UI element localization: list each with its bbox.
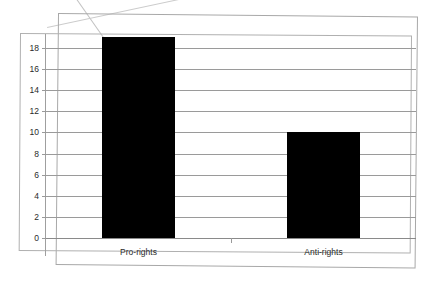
x-axis-category-separator-tick [231,238,232,243]
y-axis-tick-label: 4 [34,191,39,201]
y-axis-tick-label: 12 [30,106,39,116]
y-axis-tick-label: 8 [34,149,39,159]
y-axis-tick-label: 10 [30,127,39,137]
bar-pro-rights [102,37,175,238]
y-axis-tick [42,69,46,70]
y-axis-tick-label: 0 [34,233,39,243]
y-axis-tick [42,132,46,133]
x-axis-category-label: Anti-rights [304,247,342,257]
bar-anti-rights [287,132,360,238]
y-axis-tick-label: 14 [30,85,39,95]
y-axis-line [45,34,46,256]
y-axis-tick [42,196,46,197]
x-axis-labels-group: Pro-rightsAnti-rights [46,238,416,266]
y-axis-tick [42,90,46,91]
y-axis-tick [42,111,46,112]
gridlines-group: 024681012141618 [46,48,416,238]
y-axis-tick-label: 6 [34,170,39,180]
y-axis-tick-label: 18 [30,43,39,53]
y-axis-tick [42,175,46,176]
x-axis-category-label: Pro-rights [120,247,157,257]
y-axis-tick [42,217,46,218]
y-axis-tick [42,48,46,49]
y-axis-tick [42,154,46,155]
y-axis-tick-label: 16 [30,64,39,74]
y-axis-tick-label: 2 [34,212,39,222]
chart-page: 024681012141618 Pro-rightsAnti-rights [0,0,432,281]
bar-chart: 024681012141618 Pro-rightsAnti-rights [46,30,416,240]
